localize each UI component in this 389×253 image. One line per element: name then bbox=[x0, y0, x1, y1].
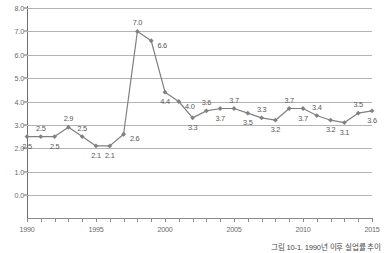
x-axis-tick-mark bbox=[220, 218, 221, 222]
x-axis-tick-mark bbox=[193, 218, 194, 222]
x-axis-line bbox=[27, 218, 372, 219]
x-axis-tick-mark bbox=[358, 218, 359, 222]
y-axis-tick-label: 5.0 bbox=[15, 74, 24, 83]
data-point-marker bbox=[204, 108, 209, 113]
x-axis-tick-label: 2010 bbox=[295, 225, 310, 234]
x-axis-tick-label: 1995 bbox=[88, 225, 103, 234]
x-axis-tick-mark bbox=[317, 218, 318, 222]
y-axis-tick-label: 3.0 bbox=[15, 120, 24, 129]
x-axis-tick-mark bbox=[289, 218, 290, 222]
data-point-label: 3.3 bbox=[188, 122, 197, 131]
data-point-marker bbox=[370, 108, 375, 113]
data-point-label: 3.7 bbox=[216, 113, 225, 122]
y-axis-tick-label: 6.0 bbox=[15, 50, 24, 59]
x-axis-tick-mark bbox=[303, 218, 304, 222]
x-axis-tick-mark bbox=[262, 218, 263, 222]
x-axis-tick-label: 2005 bbox=[226, 225, 241, 234]
y-axis-tick-mark bbox=[24, 195, 27, 196]
y-axis-tick-label: 8.0 bbox=[15, 4, 24, 13]
data-point-label: 3.7 bbox=[229, 95, 238, 104]
x-axis-tick-mark bbox=[344, 218, 345, 222]
data-point-label: 3.5 bbox=[243, 118, 252, 127]
y-axis-tick-mark bbox=[24, 31, 27, 32]
x-axis-tick-mark bbox=[82, 218, 83, 222]
y-axis-labels: 0.01.02.03.04.05.06.07.08.0 bbox=[0, 0, 24, 253]
y-axis-tick-mark bbox=[24, 171, 27, 172]
y-axis-tick-mark bbox=[24, 8, 27, 9]
unemployment-rate-line-chart: 0.01.02.03.04.05.06.07.08.0 199019952000… bbox=[0, 0, 389, 253]
data-point-marker bbox=[328, 118, 333, 123]
x-axis-tick-mark bbox=[96, 218, 97, 222]
y-axis-tick-mark bbox=[24, 78, 27, 79]
data-point-label: 3.7 bbox=[285, 95, 294, 104]
plot-area: 2.52.52.52.92.52.12.12.67.06.64.44.03.33… bbox=[27, 8, 372, 195]
x-axis-tick-mark bbox=[124, 218, 125, 222]
y-axis-tick-mark bbox=[24, 101, 27, 102]
y-axis-tick-label: 1.0 bbox=[15, 167, 24, 176]
data-point-label: 3.6 bbox=[367, 115, 376, 124]
gridline bbox=[27, 195, 372, 196]
data-point-label: 3.5 bbox=[354, 100, 363, 109]
data-point-label: 2.5 bbox=[50, 141, 59, 150]
x-axis-tick-mark bbox=[372, 218, 373, 222]
y-axis-tick-mark bbox=[24, 54, 27, 55]
data-point-marker bbox=[38, 134, 43, 139]
x-axis-tick-mark bbox=[110, 218, 111, 222]
data-point-label: 2.1 bbox=[105, 150, 114, 159]
data-point-label: 3.2 bbox=[271, 125, 280, 134]
x-axis-tick-mark bbox=[55, 218, 56, 222]
data-point-marker bbox=[218, 106, 223, 111]
data-point-label: 2.6 bbox=[130, 134, 139, 143]
y-axis-tick-label: 7.0 bbox=[15, 27, 24, 36]
x-axis-tick-mark bbox=[151, 218, 152, 222]
data-point-label: 2.1 bbox=[91, 150, 100, 159]
x-axis-tick-mark bbox=[27, 218, 28, 222]
x-axis-tick-label: 2015 bbox=[364, 225, 379, 234]
data-point-label: 7.0 bbox=[133, 18, 142, 27]
x-axis-tick-mark bbox=[68, 218, 69, 222]
data-point-label: 6.6 bbox=[158, 40, 167, 49]
data-point-label: 3.6 bbox=[202, 97, 211, 106]
x-axis-tick-mark bbox=[234, 218, 235, 222]
y-axis-tick-mark bbox=[24, 148, 27, 149]
x-axis-tick-label: 1990 bbox=[19, 225, 34, 234]
x-axis-tick-mark bbox=[137, 218, 138, 222]
x-axis-tick-mark bbox=[331, 218, 332, 222]
data-point-label: 3.3 bbox=[257, 104, 266, 113]
x-axis-tick-label: 2000 bbox=[157, 225, 172, 234]
data-point-marker bbox=[245, 111, 250, 116]
data-point-label: 4.4 bbox=[160, 97, 169, 106]
data-point-label: 2.9 bbox=[64, 114, 73, 123]
data-point-label: 2.5 bbox=[36, 123, 45, 132]
y-axis-tick-label: 4.0 bbox=[15, 97, 24, 106]
data-point-marker bbox=[25, 134, 30, 139]
data-point-label: 3.4 bbox=[312, 102, 321, 111]
data-point-marker bbox=[301, 106, 306, 111]
data-point-marker bbox=[232, 106, 237, 111]
data-point-label: 4.0 bbox=[185, 101, 194, 110]
y-axis-tick-mark bbox=[24, 124, 27, 125]
data-point-label: 3.7 bbox=[298, 113, 307, 122]
x-axis-tick-mark bbox=[179, 218, 180, 222]
y-axis-tick-label: 0.0 bbox=[15, 191, 24, 200]
data-point-label: 2.5 bbox=[78, 123, 87, 132]
figure-caption: 그림 10-1. 1990년 이후 실업률 추이 bbox=[0, 241, 381, 253]
data-point-label: 3.1 bbox=[340, 127, 349, 136]
x-axis-tick-mark bbox=[206, 218, 207, 222]
x-axis-tick-mark bbox=[275, 218, 276, 222]
x-axis-tick-mark bbox=[248, 218, 249, 222]
x-axis-tick-mark bbox=[165, 218, 166, 222]
data-point-marker bbox=[314, 113, 319, 118]
x-axis-tick-mark bbox=[41, 218, 42, 222]
data-point-marker bbox=[259, 115, 264, 120]
data-point-label: 3.2 bbox=[326, 125, 335, 134]
